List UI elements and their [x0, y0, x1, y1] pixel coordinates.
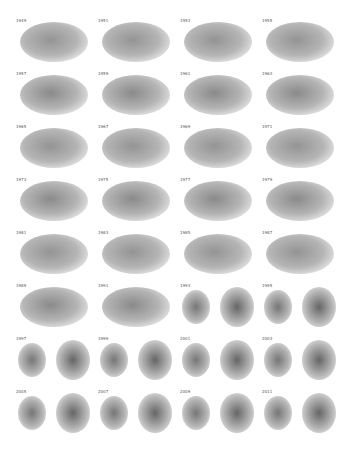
network-panel: 1981: [14, 228, 94, 280]
network-panel: 1999: [96, 334, 176, 386]
network-cluster-right: [220, 393, 254, 433]
panel-year-label: 2005: [16, 389, 26, 394]
network-panel: 1973: [14, 175, 94, 227]
network-cluster-left: [18, 343, 46, 377]
network-panel-grid: 1949195119531955195719591961196319651967…: [14, 16, 339, 436]
panel-year-label: 1959: [98, 71, 108, 76]
network-cluster-left: [100, 343, 128, 377]
panel-year-label: 2007: [98, 389, 108, 394]
network-cluster: [266, 75, 334, 115]
network-cluster: [20, 181, 88, 221]
network-panel: 1959: [96, 69, 176, 121]
panel-year-label: 2003: [262, 336, 272, 341]
network-cluster: [102, 287, 170, 327]
network-panel: 1997: [14, 334, 94, 386]
network-panel: 2003: [260, 334, 340, 386]
panel-year-label: 1951: [98, 18, 108, 23]
network-cluster-right: [220, 287, 254, 327]
network-cluster: [20, 128, 88, 168]
network-panel: 1953: [178, 16, 258, 68]
network-cluster-left: [100, 396, 128, 430]
panel-year-label: 1973: [16, 177, 26, 182]
network-panel: 2005: [14, 387, 94, 439]
network-cluster: [184, 22, 252, 62]
network-cluster-left: [264, 290, 292, 324]
network-panel: 1971: [260, 122, 340, 174]
panel-year-label: 1957: [16, 71, 26, 76]
network-panel: 1975: [96, 175, 176, 227]
network-panel: 1993: [178, 281, 258, 333]
panel-year-label: 1949: [16, 18, 26, 23]
network-cluster: [102, 181, 170, 221]
network-cluster-left: [18, 396, 46, 430]
panel-year-label: 1997: [16, 336, 26, 341]
network-cluster-right: [220, 340, 254, 380]
network-panel: 2009: [178, 387, 258, 439]
panel-year-label: 1987: [262, 230, 272, 235]
panel-year-label: 1993: [180, 283, 190, 288]
network-panel: 1963: [260, 69, 340, 121]
network-cluster: [102, 22, 170, 62]
network-cluster-right: [302, 393, 336, 433]
network-cluster: [266, 22, 334, 62]
network-cluster-right: [302, 340, 336, 380]
network-cluster-left: [264, 343, 292, 377]
network-panel: 1977: [178, 175, 258, 227]
network-cluster: [184, 128, 252, 168]
network-panel: 1995: [260, 281, 340, 333]
panel-year-label: 1983: [98, 230, 108, 235]
network-cluster-right: [56, 393, 90, 433]
network-cluster: [184, 234, 252, 274]
panel-year-label: 1961: [180, 71, 190, 76]
network-cluster-left: [182, 290, 210, 324]
panel-year-label: 1953: [180, 18, 190, 23]
panel-year-label: 1965: [16, 124, 26, 129]
network-cluster: [102, 234, 170, 274]
network-panel: 1967: [96, 122, 176, 174]
panel-year-label: 1975: [98, 177, 108, 182]
panel-year-label: 1989: [16, 283, 26, 288]
network-cluster-left: [182, 396, 210, 430]
network-panel: 1965: [14, 122, 94, 174]
network-cluster-right: [138, 340, 172, 380]
network-cluster: [102, 128, 170, 168]
panel-year-label: 1979: [262, 177, 272, 182]
network-panel: 2011: [260, 387, 340, 439]
panel-year-label: 2011: [262, 389, 272, 394]
network-panel: 2001: [178, 334, 258, 386]
network-cluster: [20, 22, 88, 62]
network-cluster: [184, 75, 252, 115]
network-cluster: [20, 234, 88, 274]
panel-year-label: 1969: [180, 124, 190, 129]
network-panel: 1961: [178, 69, 258, 121]
network-cluster: [266, 234, 334, 274]
network-panel: 1949: [14, 16, 94, 68]
panel-year-label: 2009: [180, 389, 190, 394]
panel-year-label: 1991: [98, 283, 108, 288]
panel-year-label: 1967: [98, 124, 108, 129]
network-cluster: [266, 181, 334, 221]
panel-year-label: 1977: [180, 177, 190, 182]
panel-year-label: 1981: [16, 230, 26, 235]
network-cluster: [266, 128, 334, 168]
panel-year-label: 1985: [180, 230, 190, 235]
network-cluster: [184, 181, 252, 221]
network-cluster-right: [302, 287, 336, 327]
panel-year-label: 2001: [180, 336, 190, 341]
panel-year-label: 1995: [262, 283, 272, 288]
network-cluster: [20, 287, 88, 327]
network-cluster-left: [182, 343, 210, 377]
network-cluster: [20, 75, 88, 115]
panel-year-label: 1999: [98, 336, 108, 341]
network-panel: 1983: [96, 228, 176, 280]
panel-year-label: 1971: [262, 124, 272, 129]
network-panel: 1955: [260, 16, 340, 68]
network-panel: 1957: [14, 69, 94, 121]
network-panel: 1985: [178, 228, 258, 280]
panel-year-label: 1955: [262, 18, 272, 23]
network-panel: 1991: [96, 281, 176, 333]
panel-year-label: 1963: [262, 71, 272, 76]
network-cluster-left: [264, 396, 292, 430]
network-panel: 1979: [260, 175, 340, 227]
network-panel: 1951: [96, 16, 176, 68]
